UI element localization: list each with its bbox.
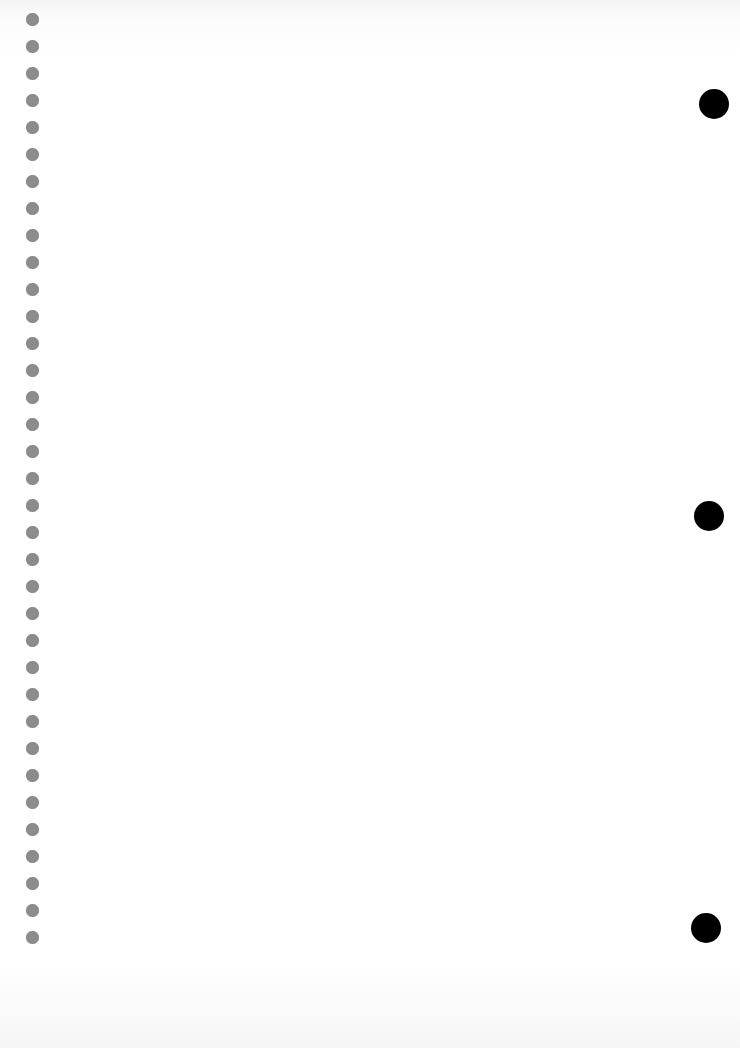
spiral-hole [26,499,39,512]
spiral-hole [26,256,39,269]
spiral-hole [26,634,39,647]
spiral-hole [26,769,39,782]
spiral-hole [26,364,39,377]
spiral-hole [26,742,39,755]
spiral-hole [26,607,39,620]
spiral-hole [26,40,39,53]
spiral-hole [26,877,39,890]
spiral-hole [26,175,39,188]
punch-hole [699,89,729,119]
spiral-hole [26,580,39,593]
spiral-hole [26,553,39,566]
spiral-hole [26,661,39,674]
spiral-hole [26,472,39,485]
spiral-hole [26,823,39,836]
spiral-hole [26,796,39,809]
spiral-hole [26,229,39,242]
spiral-hole [26,418,39,431]
spiral-hole [26,148,39,161]
spiral-hole [26,904,39,917]
spiral-hole [26,391,39,404]
spiral-hole [26,121,39,134]
spiral-hole [26,688,39,701]
spiral-hole [26,526,39,539]
spiral-hole [26,283,39,296]
spiral-hole [26,310,39,323]
spiral-hole [26,13,39,26]
spiral-hole [26,67,39,80]
notebook-page [0,0,740,1048]
spiral-hole [26,337,39,350]
spiral-hole [26,850,39,863]
spiral-hole [26,715,39,728]
spiral-hole [26,202,39,215]
punch-hole [691,913,721,943]
spiral-hole [26,931,39,944]
punch-hole [694,501,724,531]
spiral-hole [26,445,39,458]
spiral-hole [26,94,39,107]
